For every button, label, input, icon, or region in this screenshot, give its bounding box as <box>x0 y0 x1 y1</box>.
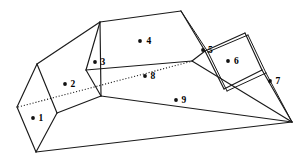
face-label-dot-9 <box>174 98 178 102</box>
face-label-dot-1 <box>31 116 35 120</box>
face-label-text-3: 3 <box>101 57 106 67</box>
face-label-dot-4 <box>138 39 142 43</box>
face-label-text-6: 6 <box>234 56 239 66</box>
face-label-dot-6 <box>226 59 230 63</box>
face-label-text-2: 2 <box>71 79 76 89</box>
face-label-dot-7 <box>268 79 272 83</box>
face-label-dot-3 <box>93 60 97 64</box>
face-label-text-8: 8 <box>151 71 156 81</box>
face-label-dot-5 <box>201 48 205 52</box>
face-label-text-4: 4 <box>147 36 152 46</box>
face-label-text-7: 7 <box>276 76 281 86</box>
face-label-dot-8 <box>143 74 147 78</box>
face-label-text-1: 1 <box>39 113 44 123</box>
face-label-dot-2 <box>63 82 67 86</box>
polyhedron-diagram: 1 2 3 4 5 6 7 8 <box>0 0 306 160</box>
figure-container: 1 2 3 4 5 6 7 8 <box>0 0 306 160</box>
face-label-text-9: 9 <box>182 95 187 105</box>
faces-group <box>17 11 292 152</box>
face-base <box>17 11 292 152</box>
face-label-text-5: 5 <box>208 45 213 55</box>
